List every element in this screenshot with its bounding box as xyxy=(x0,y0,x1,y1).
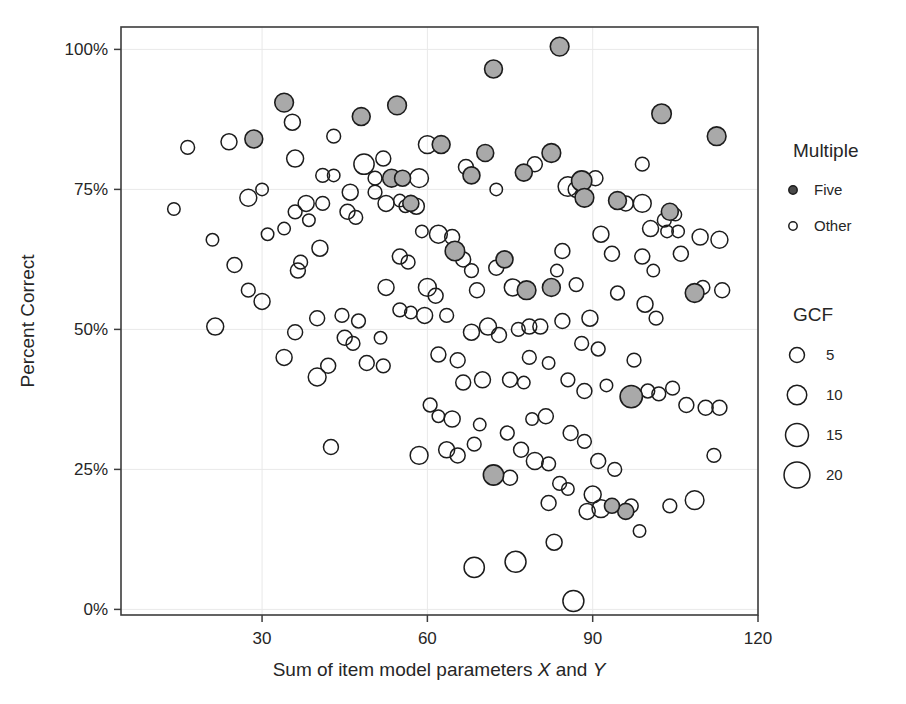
data-point xyxy=(637,296,653,312)
data-point xyxy=(492,328,507,343)
data-point xyxy=(261,228,273,240)
data-point xyxy=(569,278,583,292)
data-point xyxy=(555,244,570,259)
data-point xyxy=(503,470,518,485)
data-point xyxy=(376,151,391,166)
data-point xyxy=(474,372,490,388)
data-point xyxy=(316,197,330,211)
data-point xyxy=(555,314,570,329)
data-point xyxy=(698,400,713,415)
data-point xyxy=(515,164,532,181)
data-point xyxy=(254,293,270,309)
data-point xyxy=(575,188,594,207)
data-point xyxy=(227,258,242,273)
data-point xyxy=(445,241,465,261)
data-point xyxy=(464,557,484,577)
data-point xyxy=(288,205,302,219)
data-point xyxy=(368,171,382,185)
data-point xyxy=(643,221,659,237)
data-point xyxy=(327,129,341,143)
data-point xyxy=(679,398,694,413)
data-point xyxy=(312,240,328,256)
data-point xyxy=(405,306,417,318)
legend-label-other: Other xyxy=(814,217,852,234)
data-point xyxy=(207,318,224,335)
data-point xyxy=(609,192,627,210)
scatter-plot-figure: 0%25%50%75%100%306090120 Sum of item mod… xyxy=(0,0,906,704)
data-point xyxy=(707,127,726,146)
data-point xyxy=(256,183,268,195)
data-point xyxy=(542,278,560,296)
data-point xyxy=(604,498,619,513)
y-axis-title: Percent Correct xyxy=(17,254,38,388)
data-point xyxy=(368,185,382,199)
data-point xyxy=(359,356,374,371)
data-point xyxy=(473,418,485,430)
y-tick-label: 25% xyxy=(74,460,108,479)
data-point xyxy=(241,283,255,297)
data-point xyxy=(611,286,625,300)
legend-gcf-label: 10 xyxy=(826,386,843,403)
data-point xyxy=(591,454,606,469)
data-point xyxy=(354,154,374,174)
data-point xyxy=(456,375,471,390)
data-point xyxy=(633,525,645,537)
data-point xyxy=(715,283,730,298)
data-point xyxy=(575,337,589,351)
data-point xyxy=(477,145,494,162)
data-point xyxy=(403,195,419,211)
x-axis-title: Sum of item model parameters X and Y xyxy=(273,659,607,680)
data-point xyxy=(352,314,366,328)
data-point xyxy=(467,437,481,451)
data-point xyxy=(620,385,642,407)
data-point xyxy=(378,195,394,211)
data-point xyxy=(661,203,678,220)
data-point xyxy=(388,96,407,115)
data-point xyxy=(376,359,390,373)
data-point xyxy=(287,150,304,167)
chart-canvas: 0%25%50%75%100%306090120 Sum of item mod… xyxy=(0,0,906,704)
data-point xyxy=(712,400,727,415)
data-point xyxy=(378,279,394,295)
data-point xyxy=(591,342,605,356)
data-point xyxy=(685,284,704,303)
data-point xyxy=(483,465,503,485)
data-point xyxy=(692,229,708,245)
data-point xyxy=(600,379,612,391)
x-tick-label: 60 xyxy=(418,629,437,648)
data-point xyxy=(526,453,543,470)
data-point xyxy=(578,435,592,449)
data-point xyxy=(374,332,386,344)
data-point xyxy=(221,134,237,150)
data-point xyxy=(346,337,360,351)
data-point xyxy=(672,225,684,237)
data-point xyxy=(633,194,651,212)
data-point xyxy=(551,264,563,276)
data-point xyxy=(284,114,300,130)
figure-background xyxy=(0,0,906,704)
data-point xyxy=(649,311,663,325)
data-point xyxy=(245,130,263,148)
data-point xyxy=(635,157,649,171)
data-point xyxy=(432,136,450,154)
data-point xyxy=(517,281,536,300)
data-point xyxy=(635,249,650,264)
data-point xyxy=(416,225,428,237)
data-point xyxy=(290,263,305,278)
data-point xyxy=(542,457,556,471)
data-point xyxy=(240,189,257,206)
data-point xyxy=(410,169,429,188)
data-point xyxy=(546,534,562,550)
data-point xyxy=(685,491,704,510)
data-point xyxy=(663,499,677,513)
legend-label-five: Five xyxy=(814,181,842,198)
data-point xyxy=(181,141,195,155)
data-point xyxy=(673,246,688,261)
x-tick-label: 90 xyxy=(583,629,602,648)
data-point xyxy=(511,323,525,337)
data-point xyxy=(542,144,561,163)
data-point xyxy=(450,353,465,368)
legend-gcf-label: 20 xyxy=(826,466,843,483)
data-point xyxy=(431,347,446,362)
data-point xyxy=(465,264,479,278)
